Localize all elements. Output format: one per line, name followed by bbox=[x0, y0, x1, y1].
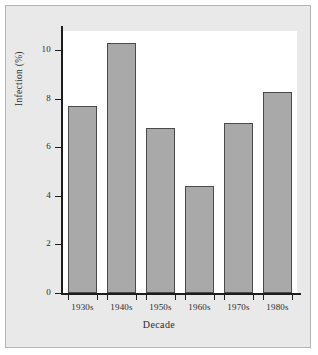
bar bbox=[185, 186, 215, 293]
bar bbox=[68, 106, 98, 293]
y-axis-line bbox=[61, 26, 63, 295]
x-axis-tick bbox=[292, 295, 293, 300]
y-axis-tick-label: 0 bbox=[46, 287, 51, 297]
y-axis-title: Infection (%) bbox=[14, 92, 24, 106]
y-axis-tick: 8 bbox=[55, 99, 61, 100]
x-axis-tick bbox=[224, 295, 225, 300]
x-axis-tick-label: 1970s bbox=[219, 302, 258, 312]
y-axis-tick-label: 6 bbox=[46, 141, 51, 151]
x-axis-tick bbox=[146, 295, 147, 300]
x-axis-tick-label: 1930s bbox=[63, 302, 102, 312]
bar bbox=[224, 123, 254, 293]
y-axis-tick: 4 bbox=[55, 196, 61, 197]
x-axis-tick bbox=[175, 295, 176, 300]
y-axis-tick-label: 8 bbox=[46, 93, 51, 103]
x-axis-title: Decade bbox=[6, 319, 312, 330]
y-axis-tick: 10 bbox=[55, 50, 61, 51]
x-axis-tick bbox=[214, 295, 215, 300]
x-axis-tick-label: 1950s bbox=[141, 302, 180, 312]
x-axis-tick-label: 1980s bbox=[258, 302, 297, 312]
x-axis-tick bbox=[107, 295, 108, 300]
bar bbox=[263, 92, 293, 293]
y-axis-tick: 2 bbox=[55, 244, 61, 245]
x-axis-tick bbox=[97, 295, 98, 300]
y-axis-tick-label: 4 bbox=[46, 190, 51, 200]
y-axis-tick-label: 2 bbox=[46, 238, 51, 248]
x-axis-tick-label: 1960s bbox=[180, 302, 219, 312]
x-axis-tick bbox=[185, 295, 186, 300]
x-axis-tick-label: 1940s bbox=[102, 302, 141, 312]
bar bbox=[107, 43, 137, 293]
y-axis-tick: 6 bbox=[55, 147, 61, 148]
y-axis-tick-label: 10 bbox=[41, 44, 51, 54]
bar bbox=[146, 128, 176, 293]
x-axis-tick bbox=[253, 295, 254, 300]
x-axis-tick bbox=[136, 295, 137, 300]
y-axis-tick: 0 bbox=[55, 293, 61, 294]
figure-frame: 0246810 1930s1940s1950s1960s1970s1980s I… bbox=[5, 5, 311, 348]
x-axis-tick bbox=[68, 295, 69, 300]
x-axis-tick bbox=[263, 295, 264, 300]
